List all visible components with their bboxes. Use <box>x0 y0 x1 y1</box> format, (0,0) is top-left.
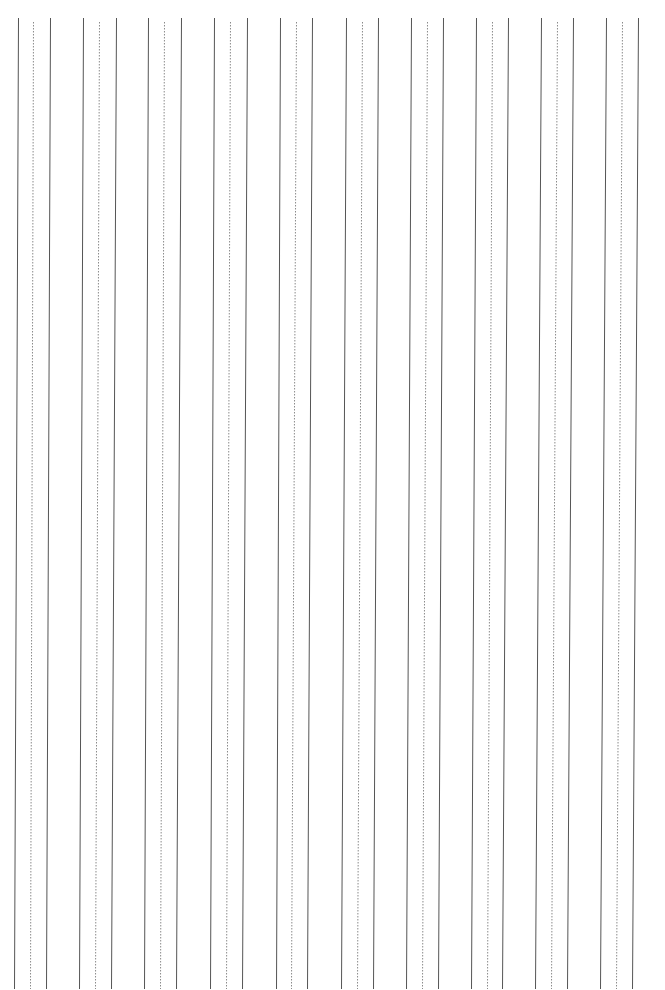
dotted-guide-line <box>358 22 363 989</box>
dotted-guide-line <box>488 22 493 989</box>
solid-rule-line <box>342 18 347 989</box>
line-group <box>472 18 509 989</box>
line-group <box>342 18 379 989</box>
solid-rule-line <box>536 18 542 989</box>
dotted-guide-line <box>423 22 428 989</box>
solid-rule-line <box>145 18 149 989</box>
solid-rule-line <box>112 18 117 989</box>
dotted-guide-line <box>292 22 297 989</box>
solid-rule-line <box>472 18 477 989</box>
line-group <box>277 18 313 989</box>
line-group <box>601 18 639 989</box>
dotted-guide-line <box>552 22 558 989</box>
line-group <box>145 18 182 989</box>
ruled-line-pattern <box>0 0 665 990</box>
solid-rule-line <box>568 18 574 989</box>
line-group <box>211 18 248 989</box>
line-groups <box>15 18 639 989</box>
solid-rule-line <box>374 18 379 989</box>
dotted-guide-line <box>227 22 231 989</box>
solid-rule-line <box>47 18 51 989</box>
solid-rule-line <box>243 18 248 989</box>
dotted-guide-line <box>96 22 100 989</box>
solid-rule-line <box>80 18 84 989</box>
line-group <box>407 18 444 989</box>
solid-rule-line <box>15 18 19 989</box>
solid-rule-line <box>211 18 215 989</box>
solid-rule-line <box>601 18 607 989</box>
line-group <box>15 18 51 989</box>
dotted-guide-line <box>31 22 34 989</box>
solid-rule-line <box>407 18 412 989</box>
line-group <box>536 18 574 989</box>
solid-rule-line <box>308 18 313 989</box>
dotted-guide-line <box>161 22 165 989</box>
solid-rule-line <box>633 18 639 989</box>
solid-rule-line <box>503 18 509 989</box>
solid-rule-line <box>177 18 182 989</box>
solid-rule-line <box>439 18 444 989</box>
dotted-guide-line <box>617 22 623 989</box>
line-group <box>80 18 117 989</box>
solid-rule-line <box>277 18 281 989</box>
